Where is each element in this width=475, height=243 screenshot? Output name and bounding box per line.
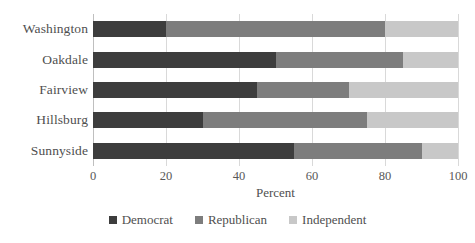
bar-segment-republican[interactable]: [294, 143, 422, 159]
legend-swatch-icon: [109, 216, 117, 224]
bar-row[interactable]: [93, 82, 458, 98]
bar-segment-democrat[interactable]: [93, 143, 294, 159]
x-tick-label: 100: [449, 169, 468, 183]
category-label: Hillsburg: [2, 112, 88, 128]
x-tick-label: 40: [233, 169, 246, 183]
category-label: Fairview: [2, 82, 88, 98]
bar-segment-republican[interactable]: [166, 21, 385, 37]
plot-area: [93, 14, 458, 166]
x-axis-title: Percent: [93, 185, 458, 201]
chart-legend: DemocratRepublicanIndependent: [0, 213, 475, 227]
bar-segment-republican[interactable]: [203, 112, 367, 128]
bar-segment-independent[interactable]: [349, 82, 459, 98]
legend-item-independent[interactable]: Independent: [289, 213, 366, 227]
bar-segment-republican[interactable]: [276, 52, 404, 68]
bar-row[interactable]: [93, 21, 458, 37]
legend-label: Democrat: [122, 213, 173, 227]
x-tick-label: 0: [90, 169, 96, 183]
bar-segment-republican[interactable]: [257, 82, 348, 98]
bar-segment-independent[interactable]: [403, 52, 458, 68]
bar-row[interactable]: [93, 52, 458, 68]
legend-swatch-icon: [289, 216, 297, 224]
gridline-100: [458, 14, 459, 166]
legend-swatch-icon: [195, 216, 203, 224]
x-tick-label: 80: [379, 169, 392, 183]
bar-segment-democrat[interactable]: [93, 82, 257, 98]
bar-segment-independent[interactable]: [367, 112, 458, 128]
bar-segment-democrat[interactable]: [93, 52, 276, 68]
stacked-bar-chart: WashingtonOakdaleFairviewHillsburgSunnys…: [0, 0, 475, 243]
category-axis-labels: WashingtonOakdaleFairviewHillsburgSunnys…: [0, 14, 88, 166]
bar-row[interactable]: [93, 112, 458, 128]
category-label: Washington: [2, 21, 88, 37]
x-axis-tick-labels: 020406080100: [93, 169, 458, 185]
legend-label: Independent: [302, 213, 366, 227]
bar-row[interactable]: [93, 143, 458, 159]
bar-segment-independent[interactable]: [422, 143, 459, 159]
x-tick-label: 60: [306, 169, 319, 183]
x-tick-label: 20: [160, 169, 173, 183]
bar-segment-democrat[interactable]: [93, 21, 166, 37]
bar-segment-independent[interactable]: [385, 21, 458, 37]
bar-segment-democrat[interactable]: [93, 112, 203, 128]
legend-item-republican[interactable]: Republican: [195, 213, 267, 227]
legend-label: Republican: [208, 213, 267, 227]
category-label: Oakdale: [2, 52, 88, 68]
category-label: Sunnyside: [2, 143, 88, 159]
legend-item-democrat[interactable]: Democrat: [109, 213, 173, 227]
